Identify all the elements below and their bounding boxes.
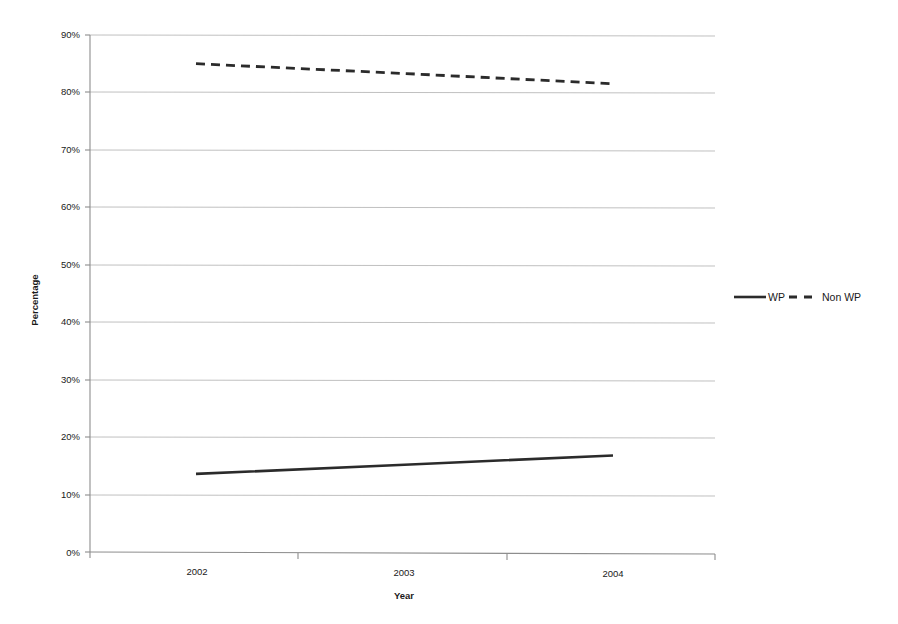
- x-tick-label-2002: 2002: [186, 566, 207, 577]
- x-tick-label-2004: 2004: [602, 568, 623, 579]
- y-tick-label-20: 20%: [61, 431, 81, 442]
- x-tick-label-2003: 2003: [393, 567, 414, 578]
- y-tick-label-10: 10%: [61, 489, 81, 500]
- y-tick-label-90: 90%: [61, 29, 81, 40]
- chart-background: [0, 0, 898, 624]
- y-tick-label-60: 60%: [61, 201, 81, 212]
- y-tick-label-40: 40%: [61, 316, 81, 327]
- y-tick-label-50: 50%: [61, 259, 81, 270]
- line-chart: 90% 80% 70% 60% 50% 40% 30% 20% 10% 0% 2…: [0, 0, 898, 624]
- y-tick-label-80: 80%: [61, 86, 81, 97]
- x-axis-title: Year: [394, 590, 414, 601]
- legend-label-non-wp: Non WP: [822, 291, 861, 303]
- y-axis-title: Percentage: [29, 274, 40, 325]
- chart-container: 90% 80% 70% 60% 50% 40% 30% 20% 10% 0% 2…: [0, 0, 898, 624]
- y-tick-label-30: 30%: [61, 374, 81, 385]
- y-tick-label-0: 0%: [66, 547, 80, 558]
- y-tick-label-70: 70%: [61, 144, 81, 155]
- legend-label-wp: WP: [768, 291, 785, 303]
